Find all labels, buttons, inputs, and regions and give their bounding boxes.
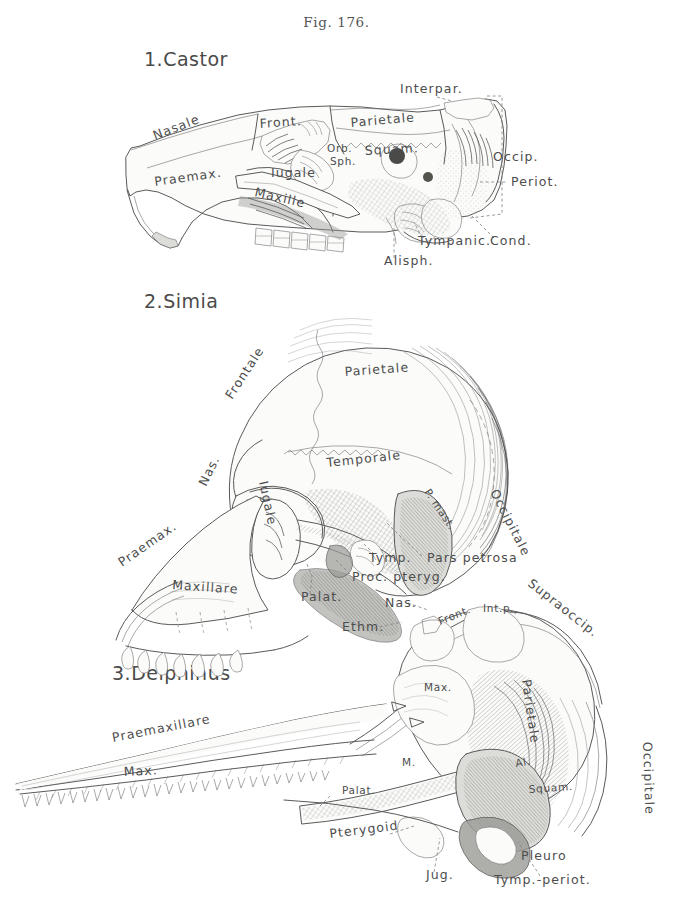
label-frontale: Frontale xyxy=(222,344,267,402)
label-occip: Occip. xyxy=(493,149,539,164)
label-squam: Squam. xyxy=(364,140,419,158)
label-iugale: Iugale xyxy=(271,165,316,180)
label-interpar: Interpar. xyxy=(400,81,463,96)
label-tymp: Tymp. xyxy=(368,550,412,565)
label-praemaxillare: Praemaxillare xyxy=(111,711,212,745)
label-sph: Sph. xyxy=(330,155,356,167)
label-tymp-periot: Tymp.-periot. xyxy=(493,872,591,887)
label-ethm: Ethm. xyxy=(342,619,384,634)
label-orb: Orb. xyxy=(327,142,352,154)
label-palat: Palat. xyxy=(342,784,375,796)
label-tympanic: Tympanic. xyxy=(417,233,491,248)
simia-teeth xyxy=(122,646,243,677)
label-periot: Periot. xyxy=(511,174,559,189)
label-occipitale: Occipitale xyxy=(640,742,658,816)
label-squam: Squam. xyxy=(528,780,573,795)
label-nas: Nas. xyxy=(195,453,222,488)
label-front: Front. xyxy=(259,113,302,131)
label-alisph: Alisph. xyxy=(384,253,434,268)
anatomical-plate: Nasale Praemax. Front. Parietale Interpa… xyxy=(0,0,673,904)
label-pterygoid: Pterygoid xyxy=(329,818,400,841)
skull-castor: Nasale Praemax. Front. Parietale Interpa… xyxy=(126,81,559,268)
label-cond: Cond. xyxy=(490,233,532,248)
label-proc-pteryg: Proc. pteryg. xyxy=(352,569,446,584)
label-m: M. xyxy=(402,756,416,768)
label-nas: Nas. xyxy=(385,595,417,610)
label-max-cranium: Max. xyxy=(424,681,452,693)
label-max-rostrum: Max. xyxy=(123,762,158,779)
leader-interpar xyxy=(437,97,452,101)
label-palat: Palat. xyxy=(301,589,342,604)
label-jug: Jug. xyxy=(425,867,454,882)
label-pleuro: Pleuro xyxy=(521,848,567,863)
label-pars-petrosa: Pars petrosa xyxy=(427,550,518,565)
label-int-p: Int.p. xyxy=(483,602,514,614)
